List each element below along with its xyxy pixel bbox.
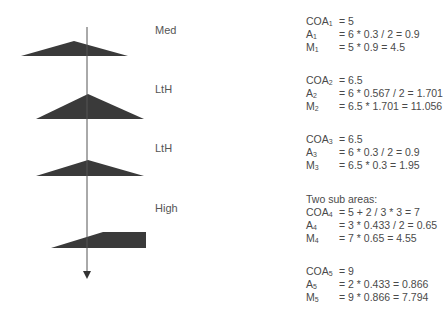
a-row: A4= 3 * 0.433 / 2 = 0.65 [306, 219, 437, 232]
m-row: M1= 5 * 0.9 = 4.5 [306, 41, 420, 54]
coa-key: COA [306, 265, 329, 277]
a-row: A2= 6 * 0.567 / 2 = 1.701 [306, 87, 443, 100]
a-sub: 1 [313, 33, 317, 40]
m-row: M2= 6.5 * 1.701 = 11.056 [306, 100, 443, 113]
triangle-shape-lth-2 [36, 160, 144, 176]
m-sub: 5 [315, 296, 319, 303]
coa-sub: 4 [329, 211, 333, 218]
m-key: M [306, 232, 315, 244]
a-sub: 4 [313, 224, 317, 231]
coa-row: COA2= 6.5 [306, 74, 443, 87]
coa-value: = 6.5 [339, 74, 363, 87]
a-key: A [306, 219, 313, 231]
coa-sub: 1 [329, 20, 333, 27]
calc-block-4: Two sub areas: COA4= 5 + 2 / 3 * 3 = 7 A… [306, 193, 437, 245]
label-lth-2: LtH [155, 142, 172, 154]
trapezoid-shape-high [51, 232, 146, 248]
coa-key: COA [306, 74, 329, 86]
coa-value: = 9 [339, 265, 354, 278]
coa-sub: 3 [329, 138, 333, 145]
coa-key: COA [306, 133, 329, 145]
coa-key: COA [306, 15, 329, 27]
label-high: High [155, 202, 178, 214]
m-sub: 2 [315, 105, 319, 112]
calc-block-5: COA5= 9 A5= 2 * 0.433 = 0.866 M5= 9 * 0.… [306, 265, 428, 304]
calc-block-1: COA1= 5 A1= 6 * 0.3 / 2 = 0.9 M1= 5 * 0.… [306, 15, 420, 54]
a-key: A [306, 278, 313, 290]
triangle-shape-lth-1 [36, 94, 144, 119]
a-value: = 6 * 0.567 / 2 = 1.701 [339, 87, 443, 100]
m-sub: 3 [315, 164, 319, 171]
a-value: = 3 * 0.433 / 2 = 0.65 [339, 219, 437, 232]
coa-row: COA1= 5 [306, 15, 420, 28]
m-row: M4= 7 * 0.65 = 4.55 [306, 232, 437, 245]
a-value: = 6 * 0.3 / 2 = 0.9 [339, 146, 420, 159]
a-key: A [306, 87, 313, 99]
calc-block-2: COA2= 6.5 A2= 6 * 0.567 / 2 = 1.701 M2= … [306, 74, 443, 113]
label-lth-1: LtH [155, 83, 172, 95]
coa-key: COA [306, 206, 329, 218]
coa-value: = 6.5 [339, 133, 363, 146]
m-value: = 6.5 * 1.701 = 11.056 [339, 100, 442, 113]
triangle-shape-med [21, 41, 128, 56]
coa-value: = 5 [339, 15, 354, 28]
a-row: A5= 2 * 0.433 = 0.866 [306, 278, 428, 291]
m-sub: 1 [315, 46, 319, 53]
coa-value: = 5 + 2 / 3 * 3 = 7 [339, 206, 420, 219]
coa-row: COA3= 6.5 [306, 133, 420, 146]
m-value: = 6.5 * 0.3 = 1.95 [339, 159, 420, 172]
m-row: M3= 6.5 * 0.3 = 1.95 [306, 159, 420, 172]
a-key: A [306, 146, 313, 158]
coa-sub: 2 [329, 79, 333, 86]
two-sub-areas-note: Two sub areas: [306, 193, 437, 206]
coa-row: COA4= 5 + 2 / 3 * 3 = 7 [306, 206, 437, 219]
m-sub: 4 [315, 237, 319, 244]
a-key: A [306, 28, 313, 40]
coa-row: COA5= 9 [306, 265, 428, 278]
m-key: M [306, 100, 315, 112]
m-key: M [306, 159, 315, 171]
a-row: A3= 6 * 0.3 / 2 = 0.9 [306, 146, 420, 159]
m-key: M [306, 41, 315, 53]
a-row: A1= 6 * 0.3 / 2 = 0.9 [306, 28, 420, 41]
m-value: = 7 * 0.65 = 4.55 [339, 232, 417, 245]
m-row: M5= 9 * 0.866 = 7.794 [306, 291, 428, 304]
a-value: = 6 * 0.3 / 2 = 0.9 [339, 28, 420, 41]
a-value: = 2 * 0.433 = 0.866 [339, 278, 428, 291]
coa-sub: 5 [329, 270, 333, 277]
label-med: Med [155, 24, 176, 36]
m-key: M [306, 291, 315, 303]
a-sub: 3 [313, 151, 317, 158]
m-value: = 5 * 0.9 = 4.5 [339, 41, 405, 54]
a-sub: 5 [313, 283, 317, 290]
a-sub: 2 [313, 92, 317, 99]
m-value: = 9 * 0.866 = 7.794 [339, 291, 428, 304]
calc-block-3: COA3= 6.5 A3= 6 * 0.3 / 2 = 0.9 M3= 6.5 … [306, 133, 420, 172]
